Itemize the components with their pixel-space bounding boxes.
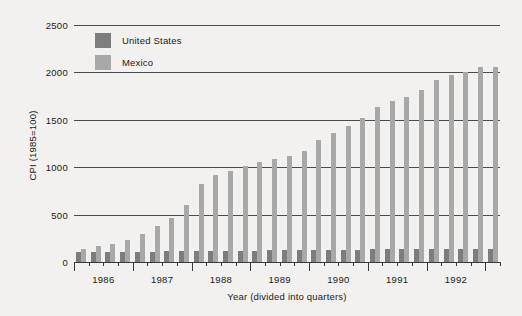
x-tick-label-1989: 1989 bbox=[268, 274, 290, 285]
bar-mexico bbox=[404, 97, 409, 262]
y-tick-label-0: 0 bbox=[26, 257, 68, 268]
bar-mexico bbox=[287, 156, 292, 262]
bar-group bbox=[341, 25, 351, 262]
x-tick-minor bbox=[147, 262, 148, 266]
bar-mexico bbox=[360, 118, 365, 262]
legend-label-mexico: Mexico bbox=[122, 57, 153, 68]
x-tick-minor bbox=[353, 262, 354, 266]
x-tick-label-1991: 1991 bbox=[386, 274, 408, 285]
x-tick-label-1986: 1986 bbox=[92, 274, 114, 285]
x-tick-label-1992: 1992 bbox=[445, 274, 467, 285]
bar-mexico bbox=[155, 226, 160, 262]
x-tick-label-1987: 1987 bbox=[151, 274, 173, 285]
bar-group bbox=[488, 25, 498, 262]
x-tick-minor bbox=[118, 262, 119, 266]
bar-mexico bbox=[419, 90, 424, 262]
bar-group bbox=[297, 25, 307, 262]
x-tick-minor bbox=[280, 262, 281, 266]
bar-mexico bbox=[390, 101, 395, 262]
x-tick-major bbox=[368, 262, 369, 271]
x-tick-minor bbox=[162, 262, 163, 266]
bar-group bbox=[76, 25, 86, 262]
cpi-bar-chart: CPI (1985=100) 05001000150020002500 1986… bbox=[0, 0, 522, 316]
x-tick-minor bbox=[456, 262, 457, 266]
x-tick-major bbox=[309, 262, 310, 271]
bar-mexico bbox=[331, 133, 336, 262]
bar-mexico bbox=[346, 126, 351, 263]
bar-mexico bbox=[493, 67, 498, 262]
x-tick-major bbox=[133, 262, 134, 271]
x-tick-minor bbox=[236, 262, 237, 266]
bar-mexico bbox=[213, 175, 218, 262]
chart-legend: United States Mexico bbox=[95, 30, 182, 74]
x-tick-major bbox=[74, 262, 75, 271]
bar-group bbox=[311, 25, 321, 262]
legend-item-united-states: United States bbox=[95, 30, 182, 50]
bar-group bbox=[194, 25, 204, 262]
x-tick-minor bbox=[221, 262, 222, 266]
x-tick-minor bbox=[441, 262, 442, 266]
y-tick-label-2500: 2500 bbox=[26, 20, 68, 31]
y-axis-title: CPI (1985=100) bbox=[27, 86, 38, 206]
x-tick-minor bbox=[471, 262, 472, 266]
bar-mexico bbox=[302, 151, 307, 262]
bar-mexico bbox=[110, 244, 115, 262]
x-tick-minor bbox=[294, 262, 295, 266]
x-axis-ticks bbox=[74, 262, 500, 274]
y-tick-label-1500: 1500 bbox=[26, 114, 68, 125]
bar-mexico bbox=[478, 67, 483, 262]
y-tick-label-2000: 2000 bbox=[26, 67, 68, 78]
bar-group bbox=[385, 25, 395, 262]
x-tick-minor bbox=[397, 262, 398, 266]
bar-group bbox=[429, 25, 439, 262]
x-tick-minor bbox=[206, 262, 207, 266]
x-tick-minor bbox=[177, 262, 178, 266]
bar-group bbox=[267, 25, 277, 262]
bar-group bbox=[252, 25, 262, 262]
bar-mexico bbox=[375, 107, 380, 262]
bar-mexico bbox=[199, 184, 204, 262]
bar-group bbox=[238, 25, 248, 262]
x-tick-minor bbox=[500, 262, 501, 266]
bar-mexico bbox=[228, 171, 233, 262]
x-tick-major bbox=[427, 262, 428, 271]
x-tick-major bbox=[192, 262, 193, 271]
x-tick-minor bbox=[265, 262, 266, 266]
bar-mexico bbox=[272, 159, 277, 262]
bar-mexico bbox=[257, 162, 262, 262]
bar-group bbox=[473, 25, 483, 262]
bar-mexico bbox=[449, 75, 454, 262]
bar-group bbox=[399, 25, 409, 262]
bar-group bbox=[414, 25, 424, 262]
bar-mexico bbox=[316, 140, 321, 262]
x-tick-minor bbox=[412, 262, 413, 266]
bar-group bbox=[208, 25, 218, 262]
bar-mexico bbox=[463, 72, 468, 262]
bar-mexico bbox=[243, 166, 248, 262]
bar-group bbox=[444, 25, 454, 262]
x-tick-minor bbox=[89, 262, 90, 266]
legend-item-mexico: Mexico bbox=[95, 52, 182, 72]
bar-mexico bbox=[96, 246, 101, 262]
bar-group bbox=[326, 25, 336, 262]
bar-group bbox=[282, 25, 292, 262]
bar-group bbox=[355, 25, 365, 262]
x-tick-label-1990: 1990 bbox=[327, 274, 349, 285]
bar-mexico bbox=[184, 205, 189, 262]
bar-mexico bbox=[169, 218, 174, 262]
x-tick-major bbox=[485, 262, 486, 271]
bar-mexico bbox=[81, 249, 86, 262]
y-tick-label-500: 500 bbox=[26, 209, 68, 220]
x-tick-minor bbox=[324, 262, 325, 266]
bar-mexico bbox=[140, 234, 145, 262]
bar-group bbox=[370, 25, 380, 262]
bar-mexico bbox=[125, 240, 130, 262]
bar-mexico bbox=[434, 80, 439, 262]
x-tick-minor bbox=[382, 262, 383, 266]
x-tick-major bbox=[250, 262, 251, 271]
x-tick-label-1988: 1988 bbox=[210, 274, 232, 285]
y-tick-label-1000: 1000 bbox=[26, 162, 68, 173]
legend-swatch-icon-united-states bbox=[95, 33, 111, 48]
bar-group bbox=[458, 25, 468, 262]
x-tick-minor bbox=[103, 262, 104, 266]
